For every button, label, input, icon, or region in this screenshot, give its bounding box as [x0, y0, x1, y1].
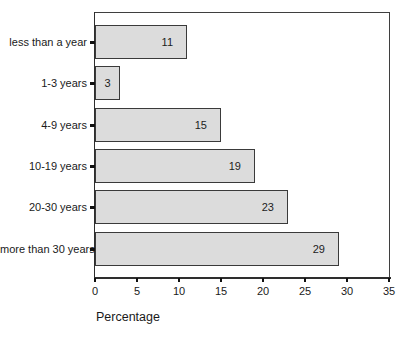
- x-axis-tick-mark: [220, 278, 222, 282]
- bar-value-label: 29: [313, 233, 325, 265]
- bar-value-label: 3: [96, 67, 119, 99]
- x-axis-tick-label: 20: [248, 285, 278, 297]
- plot-frame-right: [389, 12, 390, 278]
- category-label: 1-3 years: [0, 66, 87, 100]
- bar: 19: [95, 149, 255, 183]
- bar-chart: less than a year111-3 years34-9 years151…: [0, 0, 403, 339]
- x-axis-tick-label: 15: [206, 285, 236, 297]
- x-axis-tick-label: 10: [164, 285, 194, 297]
- x-axis-tick-label: 0: [80, 285, 110, 297]
- bar: 23: [95, 190, 288, 224]
- plot-frame-top: [94, 12, 390, 13]
- x-axis-tick-label: 25: [290, 285, 320, 297]
- x-axis-title: Percentage: [96, 310, 160, 324]
- category-label: less than a year: [0, 25, 87, 59]
- x-axis-tick-mark: [346, 278, 348, 282]
- x-axis-tick-label: 30: [332, 285, 362, 297]
- category-label: 20-30 years: [0, 190, 87, 224]
- x-axis-tick-mark: [178, 278, 180, 282]
- x-axis-tick-mark: [262, 278, 264, 282]
- bar: 3: [95, 66, 120, 100]
- category-label: more than 30 years: [0, 232, 87, 266]
- bar-value-label: 15: [195, 109, 207, 141]
- bar-value-label: 11: [162, 26, 173, 58]
- category-label: 10-19 years: [0, 149, 87, 183]
- x-axis-tick-mark: [136, 278, 138, 282]
- bar: 11: [95, 25, 187, 59]
- bar-value-label: 19: [229, 150, 241, 182]
- bar-value-label: 23: [262, 191, 274, 223]
- x-axis-tick-mark: [304, 278, 306, 282]
- bar: 15: [95, 108, 221, 142]
- category-label: 4-9 years: [0, 108, 87, 142]
- bar: 29: [95, 232, 339, 266]
- x-axis-tick-label: 5: [122, 285, 152, 297]
- x-axis-tick-label: 35: [374, 285, 403, 297]
- x-axis-tick-mark: [94, 278, 96, 282]
- x-axis-tick-mark: [388, 278, 390, 282]
